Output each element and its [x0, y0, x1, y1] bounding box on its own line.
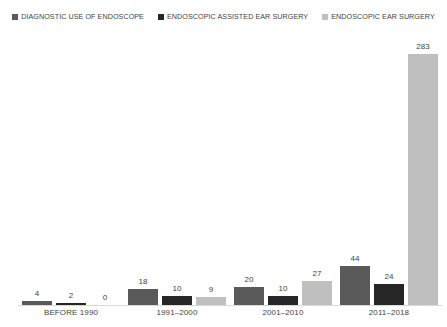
- x-axis-tick-label: 2001–2010: [230, 308, 336, 317]
- bar-chart: NUMBER OF USE OF ENDOSCOPE IN EAR SURGER…: [0, 0, 447, 327]
- bar-rect[interactable]: [374, 284, 404, 305]
- bar-item[interactable]: 27: [302, 30, 332, 305]
- bar-item[interactable]: 24: [374, 30, 404, 305]
- chart-title: NUMBER OF USE OF ENDOSCOPE IN EAR SURGER…: [0, 0, 447, 2]
- bar-item[interactable]: 2: [56, 30, 86, 305]
- bar-rect[interactable]: [162, 296, 192, 305]
- bar-value-label: 24: [385, 272, 394, 282]
- legend-item-endoscopic-ear-surgery[interactable]: ENDOSCOPIC EAR SURGERY: [322, 12, 435, 21]
- x-axis-tick-label: 2011–2018: [336, 308, 442, 317]
- bar-item[interactable]: 44: [340, 30, 370, 305]
- legend-swatch-icon: [322, 14, 328, 20]
- bar-item[interactable]: 4: [22, 30, 52, 305]
- chart-legend: DIAGNOSTIC USE OF ENDOSCOPE ENDOSCOPIC A…: [0, 12, 447, 21]
- bar-value-label: 4: [35, 289, 39, 299]
- x-axis-tick-label: 1991–2000: [124, 308, 230, 317]
- plot-area: 420181092010274424283: [18, 30, 442, 306]
- bar-value-label: 10: [279, 284, 288, 294]
- legend-item-label: DIAGNOSTIC USE OF ENDOSCOPE: [21, 12, 144, 21]
- bar-value-label: 18: [139, 277, 148, 287]
- bar-value-label: 9: [209, 285, 213, 295]
- bar-rect[interactable]: [22, 301, 52, 305]
- bar-rect[interactable]: [268, 296, 298, 305]
- bar-item[interactable]: 10: [162, 30, 192, 305]
- bar-group: 4424283: [336, 30, 442, 305]
- bar-rect[interactable]: [340, 266, 370, 305]
- bar-rect[interactable]: [234, 287, 264, 305]
- bar-group: 18109: [124, 30, 230, 305]
- bar-group: 420: [18, 30, 124, 305]
- bar-value-label: 27: [313, 269, 322, 279]
- bar-item[interactable]: 9: [196, 30, 226, 305]
- bar-rect[interactable]: [128, 289, 158, 305]
- bar-item[interactable]: 18: [128, 30, 158, 305]
- bar-rect[interactable]: [56, 303, 86, 305]
- x-axis-tick-labels: BEFORE 19901991–20002001–20102011–2018: [18, 308, 442, 324]
- bar-rect[interactable]: [196, 297, 226, 305]
- bar-rect[interactable]: [408, 54, 438, 305]
- bar-value-label: 0: [103, 293, 107, 303]
- legend-swatch-icon: [12, 14, 18, 20]
- legend-item-label: ENDOSCOPIC ASSISTED EAR SURGERY: [167, 12, 308, 21]
- bar-value-label: 44: [351, 254, 360, 264]
- legend-item-endoscopic-assisted-ear-surgery[interactable]: ENDOSCOPIC ASSISTED EAR SURGERY: [158, 12, 308, 21]
- bar-rect[interactable]: [302, 281, 332, 305]
- legend-item-diagnostic-use-of-endoscope[interactable]: DIAGNOSTIC USE OF ENDOSCOPE: [12, 12, 144, 21]
- legend-item-label: ENDOSCOPIC EAR SURGERY: [331, 12, 435, 21]
- x-axis-baseline: [18, 305, 442, 306]
- x-axis-tick-label: BEFORE 1990: [18, 308, 124, 317]
- bar-value-label: 20: [245, 275, 254, 285]
- bar-value-label: 2: [69, 291, 73, 301]
- bar-value-label: 283: [416, 42, 429, 52]
- legend-swatch-icon: [158, 14, 164, 20]
- bar-item[interactable]: 20: [234, 30, 264, 305]
- bar-group: 201027: [230, 30, 336, 305]
- bar-value-label: 10: [173, 284, 182, 294]
- bar-item[interactable]: 10: [268, 30, 298, 305]
- bar-item[interactable]: 0: [90, 30, 120, 305]
- bar-item[interactable]: 283: [408, 30, 438, 305]
